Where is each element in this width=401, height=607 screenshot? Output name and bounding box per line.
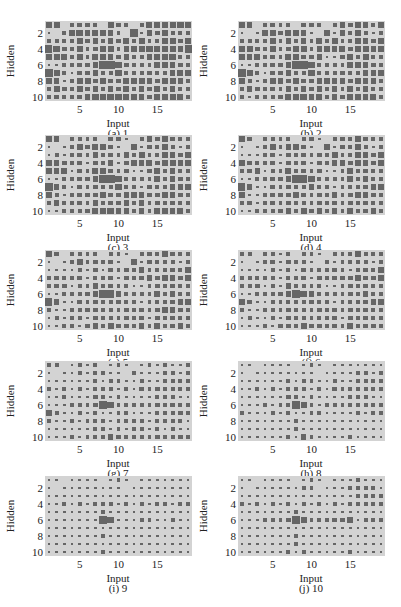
weight-square (131, 78, 136, 83)
weight-square (70, 153, 74, 157)
weight-square (179, 146, 182, 149)
weight-square (47, 276, 52, 281)
weight-square (170, 252, 175, 257)
weight-square (302, 420, 305, 423)
x-tick-label: 10 (113, 333, 124, 344)
plot-area (238, 135, 385, 215)
weight-square (117, 316, 121, 320)
weight-square (55, 411, 59, 415)
plot-area (45, 135, 192, 215)
weight-square (264, 396, 267, 399)
weight-square (76, 30, 83, 37)
weight-square (240, 411, 244, 415)
weight-square (154, 62, 160, 68)
weight-square (55, 210, 58, 213)
weight-square (371, 379, 375, 383)
weight-square (271, 316, 275, 320)
weight-square (92, 94, 99, 101)
weight-square (117, 419, 121, 423)
weight-square (325, 518, 330, 523)
weight-square (247, 46, 253, 52)
weight-square (163, 419, 167, 423)
y-tick-label: 8 (38, 416, 44, 427)
weight-square (178, 193, 183, 198)
weight-square (248, 325, 251, 328)
weight-square (70, 177, 74, 181)
weight-square (241, 495, 244, 498)
weight-square (101, 284, 106, 289)
weight-square (364, 518, 368, 522)
weight-square (318, 495, 321, 498)
weight-square (302, 511, 305, 514)
weight-square (379, 31, 384, 36)
weight-square (115, 176, 121, 182)
weight-square (241, 511, 244, 514)
weight-square (247, 161, 252, 166)
weight-square (155, 395, 159, 399)
weight-square (341, 535, 344, 538)
weight-square (248, 364, 251, 367)
weight-square (178, 63, 183, 68)
weight-square (93, 137, 97, 141)
weight-square (187, 479, 190, 482)
weight-square (302, 479, 305, 482)
weight-square (371, 177, 375, 181)
weight-square (271, 387, 275, 391)
weight-square (270, 144, 275, 149)
x-tick-label: 10 (306, 559, 317, 570)
weight-square (117, 388, 120, 391)
weight-square (332, 518, 337, 523)
weight-square (63, 511, 66, 514)
weight-square (93, 200, 98, 205)
weight-square (86, 551, 89, 554)
weight-square (93, 411, 97, 415)
weight-square (92, 30, 98, 36)
weight-square (86, 412, 89, 415)
weight-square (163, 387, 168, 392)
weight-square (178, 292, 182, 296)
weight-square (93, 86, 98, 91)
weight-square (94, 511, 97, 514)
weight-square (263, 260, 267, 264)
weight-square (364, 527, 367, 530)
weight-square (100, 78, 106, 84)
weight-square (133, 388, 136, 391)
weight-square (93, 371, 97, 375)
weight-square (63, 412, 66, 415)
weight-square (325, 209, 330, 214)
weight-square (78, 268, 82, 272)
weight-square (317, 324, 322, 329)
weight-square (70, 201, 75, 206)
weight-square (378, 160, 383, 165)
weight-square (263, 39, 267, 43)
weight-square (186, 177, 191, 182)
weight-square (48, 32, 51, 35)
weight-square (178, 78, 183, 83)
weight-square (326, 551, 329, 554)
weight-square (241, 543, 244, 546)
weight-square (263, 95, 268, 100)
weight-square (86, 252, 90, 256)
weight-square (155, 31, 160, 36)
weight-square (333, 292, 337, 296)
weight-square (70, 209, 75, 214)
weight-square (100, 46, 105, 51)
weight-square (256, 543, 259, 546)
weight-square (300, 291, 307, 298)
weight-square (286, 38, 291, 43)
weight-square (148, 535, 151, 538)
weight-square (248, 420, 251, 423)
y-tick-label: 10 (32, 547, 43, 558)
weight-square (108, 153, 113, 158)
weight-square (186, 145, 191, 150)
weight-square (93, 502, 97, 506)
weight-square (85, 23, 90, 28)
weight-square (71, 487, 74, 490)
weight-square (93, 47, 98, 52)
plot-area (238, 250, 385, 330)
weight-square (356, 268, 361, 273)
weight-square (55, 269, 58, 272)
weight-square (332, 192, 337, 197)
weight-square (310, 495, 313, 498)
weight-square (286, 387, 290, 391)
